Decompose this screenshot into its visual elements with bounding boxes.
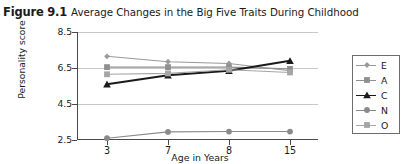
series-point-o-7 [165,71,171,77]
series-point-e-7 [165,59,171,65]
legend-marker-a [363,76,371,84]
legend-item-n[interactable]: N [353,103,401,118]
data-series-layer [0,0,410,164]
legend-item-o[interactable]: O [353,118,401,133]
series-line-c [107,61,290,84]
legend-label-a: A [381,74,387,87]
series-point-n-15 [287,129,293,135]
series-point-a-3 [104,64,110,70]
series-point-o-15 [287,70,293,76]
series-line-n [107,132,290,139]
series-point-n-3 [104,135,110,141]
legend-label-c: C [381,89,388,102]
legend-label-n: N [381,104,388,117]
legend-item-c[interactable]: C [353,88,401,103]
legend-marker-e [363,61,371,69]
series-point-o-3 [104,71,110,77]
legend-item-a[interactable]: A [353,73,401,88]
legend-item-e[interactable]: E [353,58,401,73]
figure-container: Figure 9.1Average Changes in the Big Fiv… [0,0,410,164]
legend-marker-n [363,106,371,114]
series-point-n-7 [165,129,171,135]
legend-label-o: O [381,119,388,132]
legend-marker-c [363,91,371,99]
legend: E A C N O [352,55,400,134]
series-point-n-8 [226,129,232,135]
legend-marker-o [363,121,371,129]
series-point-a-7 [165,64,171,70]
series-point-o-8 [226,67,232,73]
legend-label-e: E [381,59,387,72]
series-point-e-3 [104,53,110,59]
